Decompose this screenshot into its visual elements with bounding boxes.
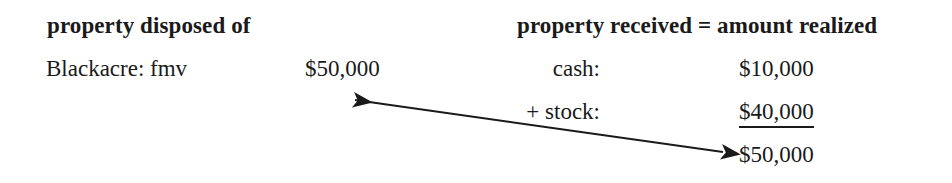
right-row-amount-total: $50,000 (739, 143, 814, 166)
left-row-amount-blackacre: $50,000 (305, 57, 380, 80)
left-column-header: property disposed of (47, 14, 251, 37)
left-row-label-blackacre: Blackacre: fmv (46, 57, 187, 80)
amount-realized-diagram: property disposed of Blackacre: fmv $50,… (0, 0, 952, 183)
right-row-label-cash: cash: (510, 57, 600, 80)
right-row-amount-cash: $10,000 (739, 57, 814, 80)
right-row-label-stock: + stock: (510, 100, 600, 123)
right-column-header: property received = amount realized (517, 14, 877, 37)
right-row-amount-stock: $40,000 (739, 100, 814, 128)
